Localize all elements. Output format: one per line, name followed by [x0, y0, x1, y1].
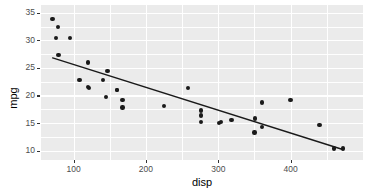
x-tick-label: 200 [139, 165, 153, 174]
data-point [252, 130, 256, 134]
data-point [260, 100, 264, 104]
y-tick-mark [37, 95, 40, 96]
data-point [120, 98, 124, 102]
y-tick-mark [37, 123, 40, 124]
scatter-plot-figure: 101520253035 100200300400 mpg disp [0, 0, 367, 195]
x-tick-mark [218, 160, 219, 163]
x-tick-mark [74, 160, 75, 163]
x-axis-title: disp [41, 176, 363, 188]
y-tick-mark [37, 151, 40, 152]
data-point [288, 98, 292, 102]
data-point [199, 113, 203, 117]
y-tick-mark [37, 40, 40, 41]
y-tick-label: 10 [26, 146, 35, 155]
y-tick-label: 30 [26, 36, 35, 45]
data-point [332, 146, 336, 150]
y-tick-mark [37, 13, 40, 14]
data-point [341, 146, 345, 150]
data-point [77, 78, 81, 82]
x-tick-mark [291, 160, 292, 163]
data-point [105, 69, 109, 73]
data-point [87, 86, 91, 90]
x-tick-label: 300 [211, 165, 225, 174]
data-point [317, 123, 321, 127]
data-point [199, 120, 203, 124]
plot-panel [41, 5, 363, 160]
x-tick-label: 100 [66, 165, 80, 174]
x-tick-label: 400 [284, 165, 298, 174]
y-tick-label: 35 [26, 8, 35, 17]
data-point [56, 53, 60, 57]
data-point [50, 17, 54, 21]
y-tick-label: 15 [26, 119, 35, 128]
regression-line [41, 5, 363, 160]
data-point [86, 60, 90, 64]
regression-line-segment [53, 58, 343, 150]
x-tick-mark [146, 160, 147, 163]
y-axis-title: mpg [7, 87, 19, 108]
data-point [120, 105, 124, 109]
y-tick-label: 25 [26, 63, 35, 72]
y-tick-mark [37, 68, 40, 69]
data-point [260, 125, 264, 129]
data-point [229, 118, 233, 122]
y-tick-label: 20 [26, 91, 35, 100]
data-point [186, 86, 190, 90]
data-point [199, 108, 203, 112]
